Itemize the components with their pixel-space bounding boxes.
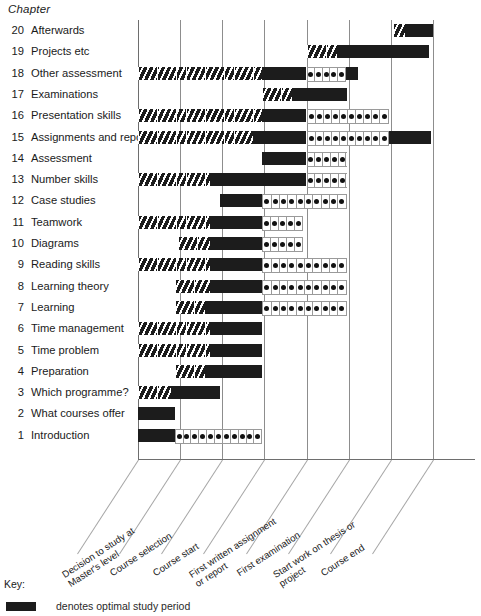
x-axis-labels: Decision to study at Master's levelCours… [0, 460, 481, 578]
chapter-title: Case studies [31, 195, 131, 206]
bar-segment-solid [210, 322, 262, 335]
chart-plot-area [138, 20, 475, 460]
chapter-number: 5 [0, 345, 31, 356]
bar-segment-hatch [178, 237, 210, 250]
chapter-number: 1 [0, 430, 31, 441]
dot-cell [364, 132, 372, 145]
bar-segment-hatch [307, 45, 337, 58]
bar-segment-solid [253, 131, 307, 144]
bar-segment-hatch [138, 216, 210, 229]
gantt-bar [138, 109, 475, 122]
bar-segment-solid [138, 407, 175, 420]
chapter-number: 11 [0, 217, 31, 228]
dot-cell [262, 238, 271, 251]
dot-cell [330, 281, 338, 294]
dot-cell [297, 259, 305, 272]
chapter-number: 10 [0, 238, 31, 249]
dot-cell [315, 68, 323, 81]
dot-cell [272, 195, 280, 208]
bar-segment-solid [210, 258, 262, 271]
gantt-bar [138, 88, 475, 101]
dot-cell [338, 281, 346, 294]
dot-cell [295, 217, 303, 230]
gantt-bar [138, 173, 475, 186]
dot-cell [305, 302, 313, 315]
dot-cell [272, 281, 280, 294]
dot-cell [332, 110, 340, 123]
chapter-title: What courses offer [31, 408, 131, 419]
dot-cell [380, 110, 388, 123]
dot-cell [331, 174, 339, 187]
chapter-title: Number skills [31, 174, 131, 185]
gantt-bar [138, 45, 475, 58]
dot-cell [330, 302, 338, 315]
dot-cell [223, 430, 231, 443]
dot-cell [322, 281, 330, 294]
dot-cell [323, 68, 331, 81]
dot-cell [271, 217, 279, 230]
bar-segment-hatch [262, 88, 292, 101]
dot-cell [316, 110, 324, 123]
dot-cell [297, 302, 305, 315]
chapter-number: 8 [0, 281, 31, 292]
dot-cell [262, 195, 271, 208]
chapter-number: 14 [0, 153, 31, 164]
chapter-row-label: 16Presentation skills [0, 105, 131, 126]
chapter-title: Diagrams [31, 238, 131, 249]
dot-cell [348, 110, 356, 123]
chapter-title: Presentation skills [31, 110, 131, 121]
bar-segment-dots [307, 173, 347, 188]
bar-segment-solid [262, 67, 306, 80]
chapter-title: Learning theory [31, 281, 131, 292]
bar-segment-hatch [393, 24, 406, 37]
dot-cell [280, 302, 288, 315]
dot-cell [348, 132, 356, 145]
dot-cell [339, 153, 347, 166]
gantt-bar [138, 407, 475, 420]
bar-segment-solid [210, 344, 262, 357]
dot-cell [262, 217, 271, 230]
chapter-row-label: 17Examinations [0, 84, 131, 105]
bar-segment-dots [262, 216, 303, 231]
bar-segment-solid [389, 131, 431, 144]
chapter-row-label: 20Afterwards [0, 20, 131, 41]
chapter-row-label: 12Case studies [0, 190, 131, 211]
bar-segment-dots [307, 131, 389, 146]
chapter-number: 7 [0, 302, 31, 313]
page-title: Chapter [8, 3, 50, 15]
dot-cell [322, 302, 330, 315]
dot-cell [288, 195, 296, 208]
dot-cell [340, 132, 348, 145]
dot-cell [288, 281, 296, 294]
dot-cell [305, 281, 313, 294]
dot-cell [339, 174, 347, 187]
dot-cell [338, 259, 346, 272]
bar-segment-solid [205, 365, 262, 378]
chapter-row-label: 8Learning theory [0, 276, 131, 297]
bar-segment-dots [262, 194, 346, 209]
chapter-row-label: 13Number skills [0, 169, 131, 190]
key-swatch-solid [6, 602, 36, 611]
bar-segment-solid [210, 173, 306, 186]
dot-cell [175, 430, 184, 443]
bar-segment-dots [307, 152, 347, 167]
gantt-chart-page: Chapter 20Afterwards19Projects etc18Othe… [0, 0, 481, 616]
bar-segment-dots [307, 109, 389, 124]
dot-cell [315, 174, 323, 187]
bar-segment-hatch [138, 173, 210, 186]
chapter-row-label: 6Time management [0, 318, 131, 339]
dot-cell [307, 110, 316, 123]
chapter-row-label: 3Which programme? [0, 382, 131, 403]
dot-cell [254, 430, 262, 443]
gantt-bar [138, 258, 475, 271]
chapter-number: 12 [0, 195, 31, 206]
chapter-title: Time management [31, 323, 131, 334]
bar-segment-solid [337, 45, 429, 58]
bar-segment-dots [262, 258, 346, 273]
chapter-row-label: 19Projects etc [0, 41, 131, 62]
bar-segment-solid [220, 194, 262, 207]
dot-cell [272, 302, 280, 315]
chapter-title: Other assessment [31, 68, 131, 79]
chapter-row-label: 14Assessment [0, 148, 131, 169]
gantt-bar [138, 386, 475, 399]
